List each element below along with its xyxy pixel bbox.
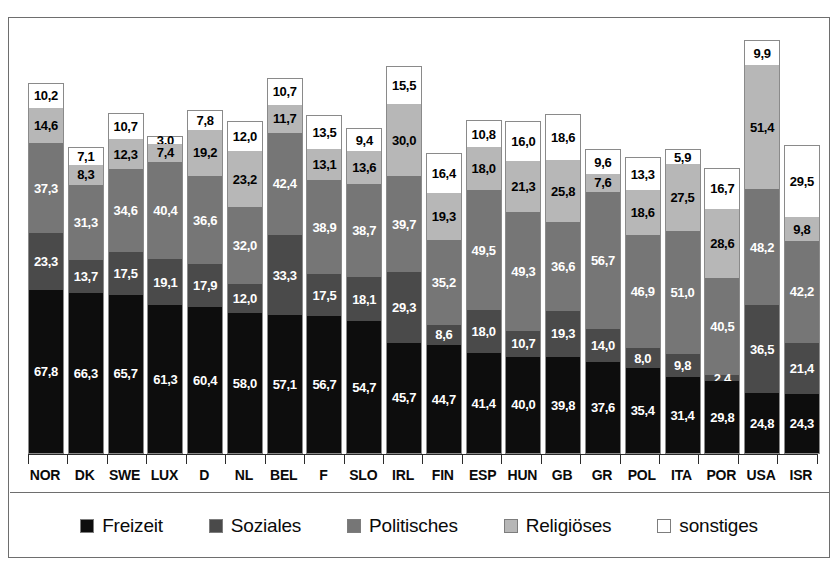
x-axis-label-bel: BEL [267,467,301,489]
x-axis-label-irl: IRL [386,467,420,489]
bar-column-isr: 29,59,842,221,424,3 [784,20,818,454]
bar-segment-soziales: 23,3 [29,233,63,289]
bar-segment-soziales: 18,0 [467,310,501,353]
legend-label: Freizeit [102,515,163,537]
bar-segment-value: 39,8 [551,399,575,412]
bar-segment-value: 32,0 [233,239,257,252]
bar-segment-value: 37,3 [34,182,58,195]
bar-column-ita: 5,927,551,09,831,4 [665,20,699,454]
bar-segment-value: 16,4 [432,167,456,180]
bar-stack: 3,07,440,419,161,3 [147,136,183,454]
bar-segment-value: 21,4 [790,362,814,375]
bar-segment-value: 58,0 [233,377,257,390]
bars-container: 10,214,637,323,367,87,18,331,313,766,310… [28,20,818,454]
bar-segment-freizeit: 40,0 [506,357,540,453]
bar-segment-soziales: 17,5 [307,274,341,316]
bar-segment-value: 11,7 [273,112,296,125]
bar-column-bel: 10,711,742,433,357,1 [267,20,301,454]
bar-stack: 16,021,349,310,740,0 [505,121,541,454]
bar-segment-value: 23,3 [34,255,58,268]
legend-swatch-icon [504,519,518,533]
bar-segment-politisches: 56,7 [586,192,620,329]
bar-segment-sonstiges: 16,7 [705,169,739,209]
bar-segment-value: 65,7 [114,367,138,380]
bar-column-f: 13,513,138,917,556,7 [306,20,340,454]
bar-segment-soziales: 19,1 [148,259,182,305]
bar-segment-value: 33,3 [273,269,297,282]
bar-segment-religioeses: 21,3 [506,161,540,212]
legend-item-soziales[interactable]: Soziales [209,515,301,537]
bar-segment-soziales: 21,4 [785,343,819,395]
legend-swatch-icon [209,519,223,533]
bar-segment-value: 29,3 [392,301,416,314]
bar-segment-religioeses: 7,6 [586,174,620,192]
bar-segment-sonstiges: 12,0 [228,122,262,151]
bar-segment-politisches: 36,6 [546,222,580,310]
bar-column-d: 7,819,236,617,960,4 [187,20,221,454]
x-axis-label-slo: SLO [346,467,380,489]
bar-segment-soziales: 19,3 [546,311,580,358]
legend-item-sonstiges[interactable]: sonstiges [657,515,757,537]
bar-segment-value: 67,8 [34,365,58,378]
bar-segment-value: 10,7 [511,337,535,350]
bar-segment-value: 5,9 [674,151,691,164]
bar-column-usa: 9,951,448,236,524,8 [744,20,778,454]
x-axis-tick [659,455,660,464]
bar-segment-value: 12,3 [114,148,138,161]
bar-segment-freizeit: 44,7 [427,345,461,453]
bar-segment-sonstiges: 9,4 [347,129,381,152]
bar-segment-value: 9,8 [674,359,691,372]
bar-segment-politisches: 40,5 [705,278,739,376]
bar-segment-sonstiges: 10,7 [268,79,302,105]
x-axis-tick [304,455,305,464]
bar-segment-value: 57,1 [273,378,297,391]
bar-segment-value: 17,5 [312,289,336,302]
bar-segment-value: 7,1 [77,150,94,163]
bar-segment-freizeit: 35,4 [626,368,660,453]
bar-segment-value: 18,0 [472,325,496,338]
bar-stack: 12,023,232,012,058,0 [227,121,263,454]
legend-item-religioeses[interactable]: Religiöses [504,515,612,537]
bar-column-nor: 10,214,637,323,367,8 [28,20,62,454]
bar-stack: 29,59,842,221,424,3 [784,145,820,454]
bar-segment-freizeit: 60,4 [188,307,222,453]
bar-segment-religioeses: 27,5 [666,164,700,230]
bar-segment-religioeses: 25,8 [546,160,580,222]
bar-segment-value: 40,0 [511,398,535,411]
bar-segment-politisches: 49,5 [467,190,501,309]
bar-segment-value: 54,7 [352,381,376,394]
x-axis-label-isr: ISR [784,467,818,489]
bar-segment-value: 18,6 [551,131,575,144]
bar-segment-value: 16,0 [511,135,535,148]
bar-column-hun: 16,021,349,310,740,0 [505,20,539,454]
bar-segment-politisches: 49,3 [506,212,540,331]
legend-label: Religiöses [526,515,612,537]
x-axis-label-pol: POL [625,467,659,489]
bar-segment-value: 19,3 [551,327,575,340]
bar-segment-sonstiges: 16,0 [506,122,540,161]
bar-stack: 10,712,334,617,565,7 [108,113,144,454]
bar-segment-soziales: 10,7 [506,331,540,357]
bar-segment-value: 19,3 [432,210,456,223]
bar-column-nl: 12,023,232,012,058,0 [227,20,261,454]
bar-segment-value: 31,3 [74,216,98,229]
legend-item-politisches[interactable]: Politisches [347,515,458,537]
bar-segment-religioeses: 14,6 [29,108,63,143]
x-axis-label-usa: USA [744,467,778,489]
bar-segment-politisches: 38,9 [307,180,341,274]
bar-segment-value: 31,4 [670,409,694,422]
bar-segment-soziales: 8,6 [427,325,461,346]
bar-segment-religioeses: 7,4 [148,144,182,162]
bar-segment-value: 13,5 [312,126,336,139]
x-axis-tick [146,455,147,464]
bar-segment-value: 24,3 [790,417,814,430]
bar-segment-value: 9,8 [793,223,810,236]
bar-segment-freizeit: 41,4 [467,353,501,453]
bar-column-pol: 13,318,646,98,035,4 [625,20,659,454]
bar-segment-value: 45,7 [392,391,416,404]
bar-segment-value: 17,9 [193,279,217,292]
bar-segment-soziales: 14,0 [586,329,620,363]
bar-segment-freizeit: 54,7 [347,321,381,453]
legend-item-freizeit[interactable]: Freizeit [80,515,163,537]
bar-segment-value: 18,0 [472,162,496,175]
